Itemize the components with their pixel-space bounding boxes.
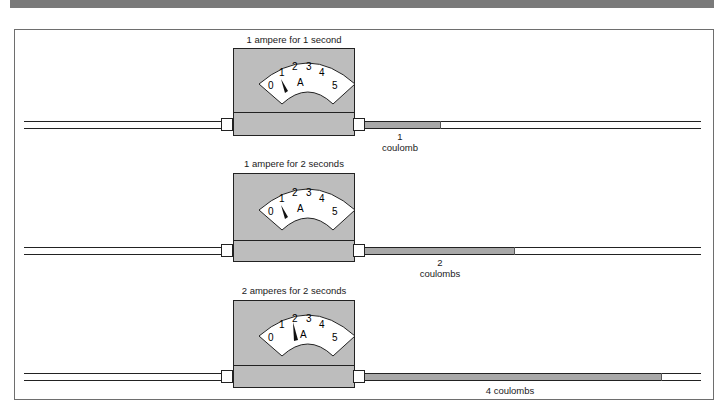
svg-text:3: 3 [306, 313, 312, 324]
wire-right-bottom [365, 128, 701, 129]
charge-bar-end [661, 373, 662, 381]
svg-text:3: 3 [306, 187, 312, 198]
svg-text:1: 1 [279, 319, 285, 330]
panel-3: 2 amperes for 2 seconds 0 1 2 3 4 5 A 4 … [0, 0, 724, 126]
wire-right-bottom [365, 254, 701, 255]
charge-label: 4 coulombs [460, 385, 560, 396]
svg-text:2: 2 [292, 187, 298, 198]
connector-left [221, 244, 233, 257]
svg-text:4: 4 [319, 193, 325, 204]
wire-right-bottom [365, 380, 701, 381]
housing-divider [234, 365, 354, 366]
svg-text:A: A [300, 329, 307, 340]
connector-left [221, 370, 233, 383]
wire-left-bottom [24, 128, 222, 129]
wire-left-bottom [24, 254, 222, 255]
charge-label: 2 coulombs [410, 257, 470, 279]
charge-bar-end [514, 247, 515, 255]
svg-text:0: 0 [268, 206, 274, 217]
svg-text:2: 2 [292, 313, 298, 324]
panel-caption: 1 ampere for 2 seconds [233, 158, 355, 169]
svg-text:5: 5 [332, 206, 338, 217]
wire-left-bottom [24, 380, 222, 381]
panel-caption: 2 amperes for 2 seconds [233, 285, 355, 296]
wire-left-top [24, 373, 222, 374]
connector-right [353, 244, 365, 257]
wire-right-top [365, 373, 701, 374]
connector-right [353, 370, 365, 383]
svg-text:5: 5 [332, 332, 338, 343]
charge-label: 1 coulomb [370, 131, 430, 153]
svg-text:0: 0 [268, 332, 274, 343]
svg-text:1: 1 [279, 193, 285, 204]
svg-text:A: A [297, 203, 304, 214]
ammeter-dial-icon: 0 1 2 3 4 5 A [255, 308, 361, 360]
wire-right-top [365, 247, 701, 248]
housing-divider [234, 240, 354, 241]
ammeter-dial-icon: 0 1 2 3 4 5 A [255, 182, 361, 234]
svg-text:4: 4 [319, 319, 325, 330]
wire-left-top [24, 247, 222, 248]
